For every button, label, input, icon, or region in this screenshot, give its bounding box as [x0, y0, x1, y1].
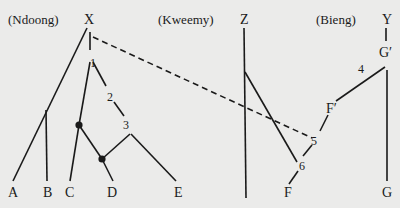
edge-b [46, 110, 47, 181]
group-label-kweemy: (Kweemy) [158, 12, 214, 27]
group-label-ndoong: (Ndoong) [8, 12, 59, 27]
node-y: Y [382, 12, 392, 27]
edge-z-6 [245, 72, 297, 162]
edge-dot-dot2 [79, 125, 102, 159]
edge-2-3 [114, 102, 124, 116]
edge-3-e [131, 134, 176, 181]
number-4: 4 [358, 62, 364, 76]
junction-dot-2 [98, 155, 105, 162]
edge-5-fprime [320, 115, 328, 131]
node-f-prime: F′ [326, 101, 337, 116]
edge-x-a [13, 28, 87, 181]
edge-6-5 [303, 145, 312, 156]
edge-6-f [289, 171, 298, 184]
node-d: D [107, 185, 117, 200]
edge-1-2 [93, 62, 106, 86]
number-3: 3 [123, 118, 129, 132]
number-6: 6 [299, 159, 305, 173]
node-a: A [8, 185, 19, 200]
edge-dot2-3 [102, 134, 130, 159]
number-2: 2 [107, 90, 113, 104]
edge-dot-c [70, 125, 79, 181]
group-label-bieng: (Bieng) [316, 12, 356, 27]
edge-z-trunk [244, 28, 246, 198]
edge-dot2-d [102, 159, 113, 181]
node-g-prime: G′ [379, 45, 392, 60]
node-x: X [84, 12, 94, 27]
node-c: C [65, 185, 74, 200]
junction-dot-1 [75, 121, 82, 128]
node-b: B [43, 185, 52, 200]
node-g: G [382, 185, 392, 200]
node-f: F [284, 185, 292, 200]
edge-1-dot [79, 62, 90, 125]
genealogy-diagram: (Ndoong) (Kweemy) (Bieng) X Z Y G′ 1 2 3… [0, 0, 400, 208]
node-z: Z [240, 12, 249, 27]
node-e: E [174, 185, 183, 200]
